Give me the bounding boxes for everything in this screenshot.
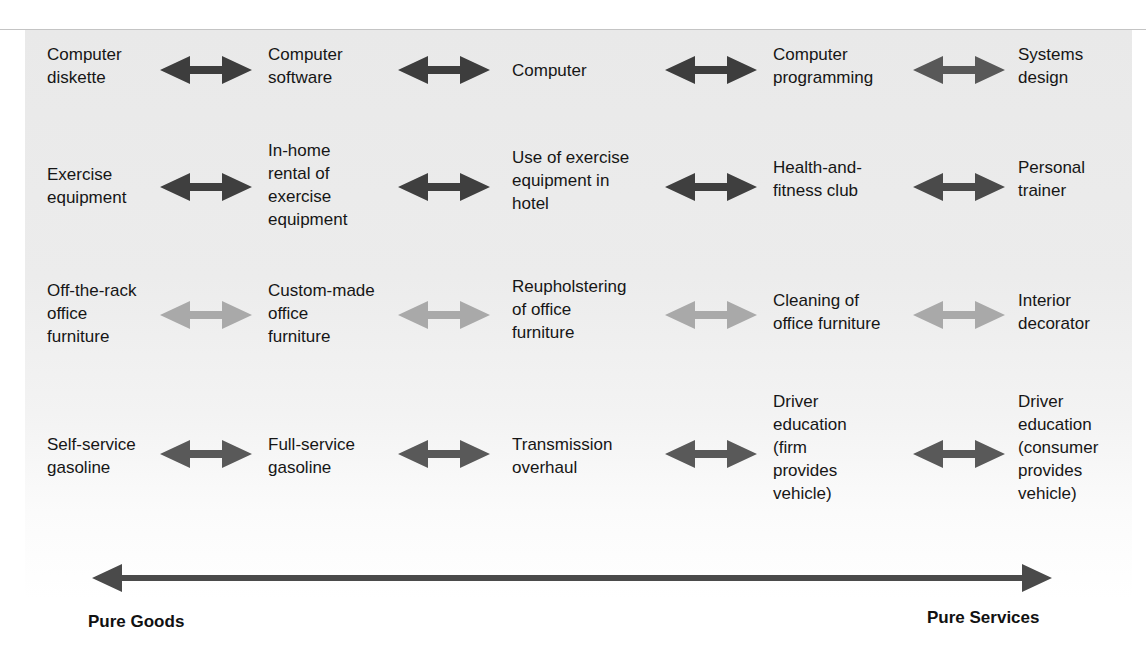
row-office-furniture-item-4: Cleaning of office furniture bbox=[773, 289, 880, 335]
goods-services-axis-arrow bbox=[92, 563, 1052, 593]
double-arrow-icon bbox=[913, 440, 1005, 468]
row-exercise-item-3: Use of exercise equipment in hotel bbox=[512, 146, 629, 215]
row-computers-item-3: Computer bbox=[512, 59, 587, 82]
row-computers-arrow-2 bbox=[398, 56, 490, 84]
row-exercise-arrow-4 bbox=[913, 173, 1005, 201]
row-automotive-item-3: Transmission overhaul bbox=[512, 433, 612, 479]
double-arrow-icon bbox=[665, 56, 757, 84]
row-computers-arrow-3 bbox=[665, 56, 757, 84]
row-office-furniture-arrow-3 bbox=[665, 301, 757, 329]
double-arrow-icon bbox=[913, 56, 1005, 84]
goods-services-continuum-diagram: Computer diskette Computer software Comp… bbox=[0, 0, 1146, 648]
double-arrow-icon bbox=[92, 563, 1052, 593]
row-exercise-item-2: In-home rental of exercise equipment bbox=[268, 139, 347, 231]
row-automotive-arrow-1 bbox=[160, 440, 252, 468]
row-computers-item-4: Computer programming bbox=[773, 43, 873, 89]
row-computers-arrow-1 bbox=[160, 56, 252, 84]
double-arrow-icon bbox=[398, 301, 490, 329]
row-exercise-item-4: Health-and- fitness club bbox=[773, 156, 862, 202]
row-exercise-arrow-1 bbox=[160, 173, 252, 201]
row-automotive-item-5: Driver education (consumer provides vehi… bbox=[1018, 390, 1098, 505]
row-computers-item-1: Computer diskette bbox=[47, 43, 122, 89]
row-automotive-arrow-3 bbox=[665, 440, 757, 468]
double-arrow-icon bbox=[913, 301, 1005, 329]
row-automotive-arrow-4 bbox=[913, 440, 1005, 468]
row-office-furniture-item-1: Off-the-rack office furniture bbox=[47, 279, 136, 348]
row-automotive-item-4: Driver education (firm provides vehicle) bbox=[773, 390, 847, 505]
double-arrow-icon bbox=[665, 440, 757, 468]
row-office-furniture-arrow-1 bbox=[160, 301, 252, 329]
row-computers-item-5: Systems design bbox=[1018, 43, 1083, 89]
double-arrow-icon bbox=[665, 301, 757, 329]
double-arrow-icon bbox=[398, 173, 490, 201]
row-exercise-arrow-2 bbox=[398, 173, 490, 201]
row-exercise-item-5: Personal trainer bbox=[1018, 156, 1085, 202]
row-automotive-arrow-2 bbox=[398, 440, 490, 468]
row-exercise-item-1: Exercise equipment bbox=[47, 163, 126, 209]
row-office-furniture-item-5: Interior decorator bbox=[1018, 289, 1090, 335]
double-arrow-icon bbox=[398, 440, 490, 468]
row-office-furniture-item-3: Reupholstering of office furniture bbox=[512, 275, 626, 344]
row-office-furniture-arrow-4 bbox=[913, 301, 1005, 329]
row-exercise-arrow-3 bbox=[665, 173, 757, 201]
pure-services-label: Pure Services bbox=[927, 608, 1039, 628]
row-office-furniture-item-2: Custom-made office furniture bbox=[268, 279, 375, 348]
double-arrow-icon bbox=[665, 173, 757, 201]
row-computers-item-2: Computer software bbox=[268, 43, 343, 89]
row-computers-arrow-4 bbox=[913, 56, 1005, 84]
row-office-furniture-arrow-2 bbox=[398, 301, 490, 329]
row-automotive-item-1: Self-service gasoline bbox=[47, 433, 136, 479]
double-arrow-icon bbox=[160, 173, 252, 201]
double-arrow-icon bbox=[160, 56, 252, 84]
pure-goods-label: Pure Goods bbox=[88, 612, 184, 632]
row-automotive-item-2: Full-service gasoline bbox=[268, 433, 355, 479]
double-arrow-icon bbox=[160, 301, 252, 329]
double-arrow-icon bbox=[913, 173, 1005, 201]
double-arrow-icon bbox=[398, 56, 490, 84]
double-arrow-icon bbox=[160, 440, 252, 468]
